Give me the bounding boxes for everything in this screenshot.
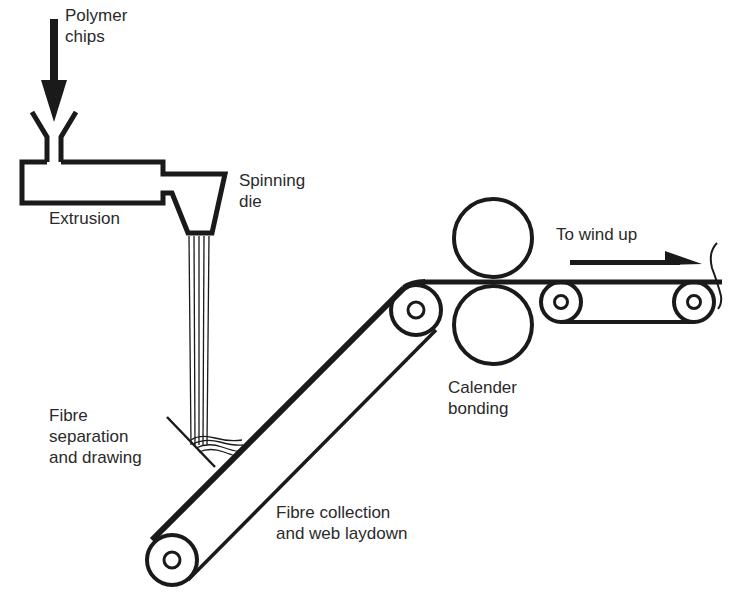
- feed-arrow-icon: [41, 19, 67, 122]
- fibre-filaments: [189, 236, 243, 456]
- label-to-wind-up: To wind up: [556, 224, 637, 245]
- wind-up-arrow-icon: [570, 251, 702, 265]
- label-fibre-separation: Fibre separation and drawing: [49, 405, 142, 468]
- label-polymer-chips: Polymer chips: [65, 5, 127, 47]
- label-calender-bonding: Calender bonding: [448, 377, 517, 419]
- label-fibre-collection: Fibre collection and web laydown: [276, 502, 407, 544]
- takeoff-conveyor: [541, 282, 714, 322]
- label-extrusion: Extrusion: [49, 208, 120, 229]
- label-spinning-die: Spinning die: [239, 170, 305, 212]
